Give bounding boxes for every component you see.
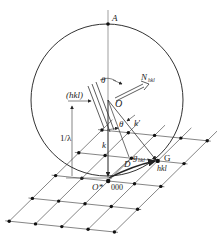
lattice-node (179, 136, 182, 139)
lattice-node (159, 185, 162, 188)
label-N-sub: hkl (148, 77, 155, 83)
lattice-node (83, 202, 86, 205)
label-k: k (102, 140, 107, 150)
lattice-node (153, 134, 156, 137)
label-theta-mid: θ (119, 119, 124, 129)
label-A: A (111, 13, 118, 23)
lattice-node (127, 131, 130, 134)
label-g-sub: hkl (138, 157, 145, 163)
label-k-prime: k′ (134, 118, 141, 128)
lattice-node (206, 139, 209, 142)
lattice-node (57, 199, 60, 202)
lattice-node-origin-000 (106, 179, 110, 183)
lattice-node (86, 228, 89, 231)
theta-top-pointer (113, 80, 122, 84)
lattice-node-hkl (156, 159, 160, 163)
diffracted-beam-k-prime (108, 100, 156, 160)
lattice-node (110, 205, 113, 208)
label-000: 000 (111, 183, 123, 192)
label-N: N (140, 72, 148, 82)
label-D: D (123, 159, 131, 169)
lattice-node (54, 174, 57, 177)
label-planes-hkl: (hkl) (66, 90, 83, 100)
label-hkl: hkl (157, 164, 168, 173)
lattice-planes (88, 82, 114, 132)
lattice-node (103, 154, 106, 157)
lattice-node (31, 197, 34, 200)
lattice-node (77, 151, 80, 154)
label-theta-top: θ (101, 75, 106, 85)
lattice-node (60, 225, 63, 228)
lattice-column-line (114, 131, 217, 232)
label-inv-lambda: 1/λ (60, 133, 72, 143)
lattice-node (8, 220, 11, 223)
lattice-node (34, 222, 37, 225)
point-A (106, 22, 110, 26)
label-O-star: O* (92, 182, 103, 192)
lattice-node (113, 230, 116, 233)
lattice-node (136, 208, 139, 211)
label-G: G (164, 153, 171, 163)
lattice-node (133, 182, 136, 185)
label-O: O (115, 98, 122, 109)
ewald-sphere-diagram: A θ N hkl (hkl) O k′ θ 1/λ k g hkl D G h… (0, 0, 217, 246)
ewald-sphere (31, 24, 183, 176)
lattice-node (100, 128, 103, 131)
lattice-node (182, 162, 185, 165)
